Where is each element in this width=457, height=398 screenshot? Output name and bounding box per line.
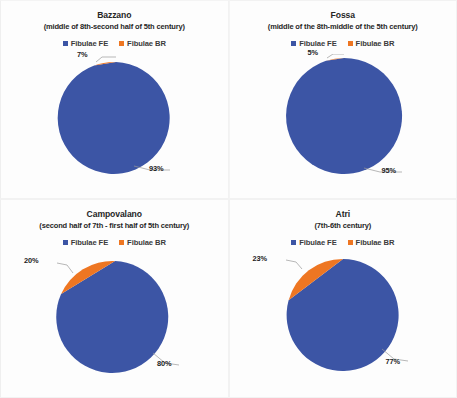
pie-chart-campovalano[interactable] xyxy=(45,257,185,375)
legend-label: Fibulae BR xyxy=(356,39,395,48)
chart-subtitle: (middle of the 8th-middle of the 5th cen… xyxy=(262,22,424,32)
pie-value-label-fibulae-br: 23% xyxy=(253,254,268,263)
chart-title: Fossa xyxy=(323,10,363,21)
chart-subtitle: (middle of 8th-second half of 5th centur… xyxy=(38,22,191,32)
legend-item-fibulae-br[interactable]: Fibulae BR xyxy=(348,39,395,48)
square-marker-icon xyxy=(348,41,353,46)
pie-value-label-fibulae-fe: 93% xyxy=(149,164,164,173)
pie-value-label-fibulae-br: 7% xyxy=(77,50,87,59)
square-marker-icon xyxy=(291,41,296,46)
legend-item-fibulae-br[interactable]: Fibulae BR xyxy=(348,238,395,247)
pie-slice-fibulae-fe[interactable] xyxy=(286,58,402,174)
legend-item-fibulae-fe[interactable]: Fibulae FE xyxy=(63,238,108,247)
pie-chart-bazzano[interactable] xyxy=(46,56,186,174)
chart-title: Campovalano xyxy=(79,209,150,220)
legend-item-fibulae-br[interactable]: Fibulae BR xyxy=(119,238,166,247)
chart-legend: Fibulae FE Fibulae BR xyxy=(63,238,166,247)
legend-label: Fibulae FE xyxy=(71,39,108,48)
chart-subtitle: (second half of 7th - first half of 5th … xyxy=(33,221,195,231)
chart-panel-campovalano: Campovalano (second half of 7th - first … xyxy=(0,199,229,398)
square-marker-icon xyxy=(63,41,68,46)
square-marker-icon xyxy=(348,240,353,245)
chart-legend: Fibulae FE Fibulae BR xyxy=(291,238,394,247)
pie-chart-grid: Bazzano (middle of 8th-second half of 5t… xyxy=(0,0,457,398)
legend-item-fibulae-fe[interactable]: Fibulae FE xyxy=(291,238,336,247)
legend-label: Fibulae FE xyxy=(299,39,336,48)
chart-panel-bazzano: Bazzano (middle of 8th-second half of 5t… xyxy=(0,0,229,199)
square-marker-icon xyxy=(119,41,124,46)
legend-label: Fibulae FE xyxy=(71,238,108,247)
chart-legend: Fibulae FE Fibulae BR xyxy=(291,39,394,48)
pie-value-label-fibulae-br: 20% xyxy=(24,256,39,265)
chart-panel-fossa: Fossa (middle of the 8th-middle of the 5… xyxy=(229,0,457,199)
chart-title: Atri xyxy=(328,209,358,220)
pie-value-label-fibulae-fe: 77% xyxy=(386,357,401,366)
square-marker-icon xyxy=(63,240,68,245)
leader-line-br xyxy=(96,57,116,62)
legend-item-fibulae-br[interactable]: Fibulae BR xyxy=(119,39,166,48)
chart-legend: Fibulae FE Fibulae BR xyxy=(63,39,166,48)
leader-line-br xyxy=(327,54,344,58)
leader-line-br xyxy=(57,263,73,273)
chart-subtitle: (7th-6th century) xyxy=(308,221,377,231)
legend-label: Fibulae FE xyxy=(299,238,336,247)
square-marker-icon xyxy=(291,240,296,245)
pie-area: 23% 77% xyxy=(230,247,457,397)
leader-line-br xyxy=(286,260,302,269)
chart-title: Bazzano xyxy=(89,10,139,21)
pie-area: 5% 95% xyxy=(230,48,457,198)
legend-item-fibulae-fe[interactable]: Fibulae FE xyxy=(291,39,336,48)
pie-value-label-fibulae-br: 5% xyxy=(308,48,318,57)
pie-value-label-fibulae-fe: 95% xyxy=(382,166,397,175)
pie-area: 20% 80% xyxy=(1,247,228,397)
legend-label: Fibulae BR xyxy=(356,238,395,247)
legend-label: Fibulae BR xyxy=(127,39,166,48)
square-marker-icon xyxy=(119,240,124,245)
pie-value-label-fibulae-fe: 80% xyxy=(157,359,172,368)
chart-panel-atri: Atri (7th-6th century) Fibulae FE Fibula… xyxy=(229,199,457,398)
pie-area: 7% 93% xyxy=(1,48,228,198)
pie-chart-fossa[interactable] xyxy=(272,54,417,176)
pie-slice-fibulae-fe[interactable] xyxy=(58,62,170,174)
legend-item-fibulae-fe[interactable]: Fibulae FE xyxy=(63,39,108,48)
legend-label: Fibulae BR xyxy=(127,238,166,247)
